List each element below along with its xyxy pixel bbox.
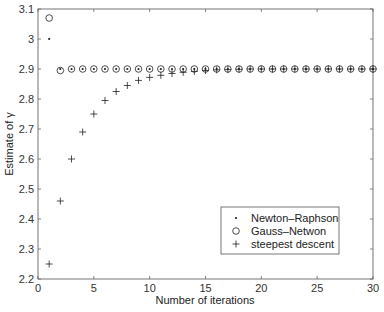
y-tick-label: 3	[28, 33, 34, 45]
data-point	[46, 15, 53, 22]
x-tick-label: 25	[311, 282, 323, 294]
data-point	[126, 68, 128, 70]
data-point	[104, 68, 106, 70]
data-point	[160, 68, 162, 70]
data-point	[191, 68, 198, 75]
y-tick-label: 2.9	[19, 63, 34, 75]
y-tick-label: 2.5	[19, 183, 34, 195]
x-tick-label: 10	[144, 282, 156, 294]
legend: Newton–Raphson Gauss–Netwon steepest des…	[221, 207, 339, 254]
series-dot	[48, 38, 374, 70]
legend-label: steepest descent	[251, 238, 334, 250]
data-point	[115, 68, 117, 70]
data-point	[93, 68, 95, 70]
data-point	[124, 82, 131, 89]
data-point	[157, 72, 164, 79]
data-point	[202, 67, 209, 74]
y-tick-label: 2.3	[19, 243, 34, 255]
y-tick-label: 2.6	[19, 153, 34, 165]
legend-label: Gauss–Netwon	[251, 225, 326, 237]
x-tick-label: 30	[367, 282, 379, 294]
legend-label: Newton–Raphson	[251, 212, 338, 224]
data-point	[180, 69, 187, 76]
data-point	[213, 66, 220, 73]
data-point	[70, 68, 72, 70]
chart: 051015202530 2.22.32.42.52.62.72.82.933.…	[0, 0, 384, 312]
data-point	[68, 156, 75, 163]
data-point	[90, 111, 97, 118]
series-circle	[46, 15, 376, 74]
y-tick-label: 2.2	[19, 273, 34, 285]
x-tick-label: 20	[255, 282, 267, 294]
data-point	[137, 68, 139, 70]
x-tick-label: 0	[35, 282, 41, 294]
x-axis-title: Number of iterations	[155, 294, 255, 306]
y-axis-title: Estimate of γ	[3, 112, 15, 176]
y-tick-label: 2.8	[19, 93, 34, 105]
data-point	[135, 77, 142, 84]
data-point	[46, 261, 53, 268]
data-point	[113, 88, 120, 95]
data-point	[48, 38, 50, 40]
data-point	[82, 68, 84, 70]
x-tick-label: 15	[199, 282, 211, 294]
legend-item-newton-raphson: Newton–Raphson	[235, 212, 339, 224]
data-point	[149, 68, 151, 70]
y-tick-label: 3.1	[19, 3, 34, 15]
data-point	[57, 198, 64, 205]
y-tick-label: 2.4	[19, 213, 34, 225]
x-tick-label: 5	[91, 282, 97, 294]
dot-marker-icon	[235, 217, 237, 219]
data-point	[146, 74, 153, 81]
data-point	[59, 68, 61, 70]
data-point	[102, 97, 109, 104]
data-point	[79, 129, 86, 136]
y-tick-label: 2.7	[19, 123, 34, 135]
data-point	[171, 68, 173, 70]
